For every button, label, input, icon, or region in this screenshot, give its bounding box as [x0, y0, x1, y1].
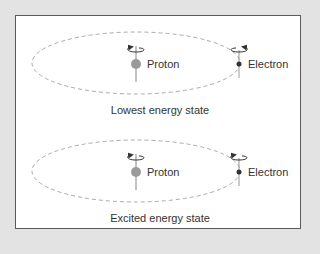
- hydrogen-spin-diagram: Proton Electron Lowest energy state Prot…: [0, 0, 320, 254]
- caption-lowest: Lowest energy state: [111, 104, 209, 116]
- proton-label: Proton: [147, 166, 179, 178]
- panel-excited-energy: Proton Electron Excited energy state: [32, 140, 288, 224]
- electron-label: Electron: [248, 166, 288, 178]
- caption-excited: Excited energy state: [110, 212, 210, 224]
- panel-lowest-energy: Proton Electron Lowest energy state: [32, 32, 288, 116]
- electron: [237, 62, 242, 67]
- proton: [131, 167, 141, 177]
- electron: [237, 170, 242, 175]
- proton: [131, 59, 141, 69]
- proton-label: Proton: [147, 58, 179, 70]
- electron-label: Electron: [248, 58, 288, 70]
